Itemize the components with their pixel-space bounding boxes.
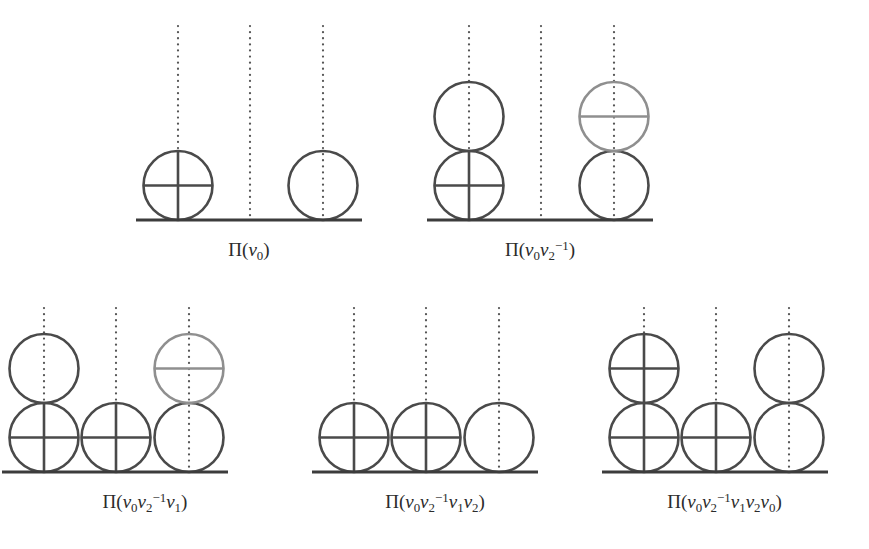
panel-label: Π(v0v2−1v1) — [0, 492, 290, 511]
circle-node — [610, 334, 679, 403]
panel-label: Π(v0) — [104, 240, 394, 259]
circle-node — [82, 403, 151, 472]
diagram-panel: Π(v0) — [104, 8, 394, 258]
circle-node — [682, 403, 751, 472]
circle-node — [435, 151, 504, 220]
panel-canvas — [395, 8, 685, 258]
circle-node — [392, 403, 461, 472]
circle-node — [10, 403, 79, 472]
panel-label: Π(v0v2−1v1v2) — [290, 492, 580, 511]
panel-label: Π(v0v2−1v1v2v0) — [580, 492, 869, 511]
circle-node — [144, 151, 213, 220]
circle-node — [610, 403, 679, 472]
diagram-panel: Π(v0v2−1v1) — [0, 290, 290, 540]
diagram-panel: Π(v0v2−1v1v2) — [290, 290, 580, 540]
diagram-panel: Π(v0v2−1) — [395, 8, 685, 258]
circle-node — [320, 403, 389, 472]
panel-label: Π(v0v2−1) — [395, 240, 685, 259]
diagram-panel: Π(v0v2−1v1v2v0) — [580, 290, 869, 540]
figure-root: Π(v0)Π(v0v2−1)Π(v0v2−1v1)Π(v0v2−1v1v2)Π(… — [0, 0, 869, 549]
panel-canvas — [104, 8, 394, 258]
